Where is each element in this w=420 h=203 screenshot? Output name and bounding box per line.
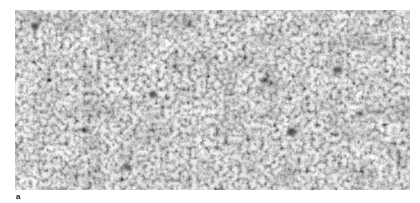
dark-spot [287,128,297,136]
dark-spot [31,23,39,29]
grain-texture [15,10,410,190]
micrograph-image [15,10,410,190]
panel-label: a [16,192,20,201]
dark-spot [334,67,342,73]
dark-spot [262,78,269,83]
dark-spot [357,112,364,117]
dark-spot [82,128,89,133]
dark-spot [149,92,157,98]
dark-spot [123,164,131,170]
